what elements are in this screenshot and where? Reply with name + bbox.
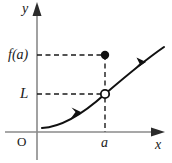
limit-diagram-figure: f(a) L y x a O [0, 0, 172, 163]
curve-arrow-left [70, 108, 82, 120]
curve-arrow-right [133, 58, 146, 71]
x-axis-label: x [155, 138, 161, 152]
function-curve [42, 47, 164, 128]
x-tick-label-a: a [101, 136, 108, 150]
y-tick-label-limit: L [20, 86, 28, 101]
origin-label: O [17, 135, 26, 148]
y-axis-arrowhead [33, 2, 42, 16]
x-axis-arrowhead [151, 128, 165, 137]
y-axis-label: y [22, 2, 28, 16]
filled-point-fa [101, 51, 109, 59]
y-tick-label-fa: f(a) [8, 48, 28, 62]
open-point-L [101, 90, 109, 98]
